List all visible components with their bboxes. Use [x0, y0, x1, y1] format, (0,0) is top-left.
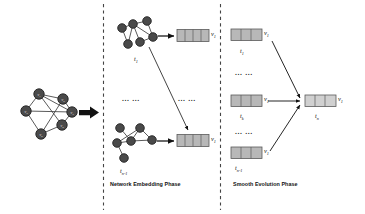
evolution-input-vector-3 [231, 147, 262, 159]
evolution-input-vector-2 [231, 95, 262, 107]
input-network-graph: v1 v2 v3 v4 v5 v6 [21, 89, 77, 139]
smooth-evolution-phase-title: Smooth Evolution Phase [233, 182, 298, 187]
evolution-time-label-3: tn-1 [235, 165, 242, 174]
embedding-snapshot-2-graph [113, 124, 157, 163]
embedding-vector-label-2: v1 [211, 136, 216, 145]
evolution-time-label-1: t1 [240, 48, 244, 57]
evolution-ellipsis-1: ... ... [235, 69, 253, 76]
evolution-input-vector-label-2: v1 [264, 96, 269, 105]
embedding-vector-1 [177, 30, 209, 42]
network-embedding-phase-title: Network Embedding Phase [110, 182, 181, 187]
evolution-output-vector-label: v1 [338, 96, 343, 105]
embedding-snapshot-connector [149, 47, 188, 130]
embedding-snapshot-1-graph [118, 17, 158, 49]
embedding-vector-label-1: v1 [211, 31, 216, 40]
input-to-embedding-arrow [79, 107, 99, 119]
evolution-converge-arrows [268, 41, 300, 151]
embedding-snapshot-2-nodes [113, 124, 157, 163]
evolution-output-vector [305, 95, 336, 107]
embedding-time-label-2: tn-1 [120, 168, 127, 177]
evolution-input-vector-1 [231, 29, 262, 41]
evolution-ellipsis-2: ... ... [235, 128, 253, 135]
embedding-ellipsis-1: ... ... [122, 95, 140, 102]
evolution-input-vector-label-3: v1 [264, 148, 269, 157]
figure-canvas: v1 v2 v3 v4 v5 v6 [0, 0, 365, 214]
embedding-time-label-1: t1 [134, 56, 138, 65]
embedding-ellipsis-2: ... ... [178, 95, 196, 102]
diagram-svg: v1 v2 v3 v4 v5 v6 [0, 0, 365, 214]
evolution-output-time-label: tn [315, 113, 319, 122]
embedding-vector-2 [177, 135, 209, 147]
evolution-time-label-2: tk [240, 113, 244, 122]
evolution-input-vector-label-1: v1 [264, 30, 269, 39]
